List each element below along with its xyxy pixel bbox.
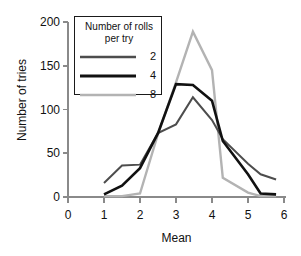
legend-title-line-2: per try — [75, 33, 163, 45]
y-tick-label: 100 — [12, 104, 60, 116]
legend-item-4[interactable]: 4 — [80, 68, 158, 83]
y-tick-label: 200 — [12, 16, 60, 28]
x-tick-label: 6 — [266, 209, 301, 221]
x-tick-label: 0 — [50, 209, 86, 221]
legend-item-8[interactable]: 8 — [80, 87, 158, 102]
legend-label-4: 4 — [136, 70, 158, 81]
chart-legend: Number of rolls per try 2 4 8 — [74, 16, 162, 95]
legend-swatch-4 — [80, 73, 136, 79]
legend-title: Number of rolls per try — [75, 21, 163, 45]
chart-container: Number of tries Mean 0501001502000123456… — [0, 0, 301, 256]
legend-label-2: 2 — [136, 51, 158, 62]
y-tick-label: 50 — [12, 147, 60, 159]
legend-swatch-2 — [80, 54, 136, 60]
x-tick-label: 4 — [194, 209, 230, 221]
legend-item-2[interactable]: 2 — [80, 49, 158, 64]
x-tick-label: 1 — [86, 209, 122, 221]
legend-title-line-1: Number of rolls — [75, 21, 163, 33]
legend-swatch-8 — [80, 92, 136, 98]
x-tick-label: 5 — [230, 209, 266, 221]
x-axis-title: Mean — [68, 232, 285, 244]
legend-label-8: 8 — [136, 89, 158, 100]
x-tick-label: 2 — [122, 209, 158, 221]
y-tick-label: 150 — [12, 60, 60, 72]
y-tick-label: 0 — [12, 191, 60, 203]
x-tick-label: 3 — [158, 209, 194, 221]
series-line-2 — [104, 97, 276, 183]
